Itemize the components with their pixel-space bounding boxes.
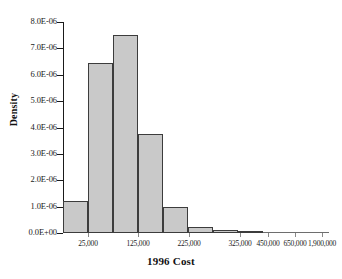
y-axis-tick: [57, 233, 63, 234]
x-axis-tick: [268, 233, 269, 237]
x-axis-tick-label: 325,000: [229, 239, 252, 248]
y-axis-tick: [57, 48, 63, 49]
x-axis-tick-label: 225,000: [178, 239, 201, 248]
y-axis-tick: [57, 128, 63, 129]
histogram-bar: [213, 230, 238, 233]
y-axis-tick-label: 3.0E-06: [9, 148, 57, 158]
histogram-bar: [163, 207, 188, 233]
y-axis-tick: [57, 154, 63, 155]
y-axis-tick-label: 2.0E-06: [9, 174, 57, 184]
y-axis-tick: [57, 101, 63, 102]
x-axis-title: 1996 Cost: [0, 255, 342, 267]
histogram-bar: [238, 231, 263, 233]
histogram-bar: [188, 227, 213, 233]
histogram-bar: [63, 201, 88, 233]
y-axis-tick-label: 0.0E+00: [9, 227, 57, 237]
x-axis-tick: [88, 233, 89, 237]
histogram-figure: Density 0.0E+001.0E-062.0E-063.0E-064.0E…: [0, 0, 342, 279]
y-axis-tick: [57, 180, 63, 181]
x-axis-tick-label: 125,000: [127, 239, 150, 248]
y-axis-tick: [57, 207, 63, 208]
x-axis-tick: [189, 233, 190, 237]
y-axis-tick-label: 8.0E-06: [9, 16, 57, 26]
y-axis-tick-label: 1.0E-06: [9, 201, 57, 211]
y-axis-tick: [57, 22, 63, 23]
plot-area: [63, 22, 329, 233]
histogram-bar: [88, 63, 113, 233]
y-axis-tick-label: 5.0E-06: [9, 95, 57, 105]
x-axis-tick: [322, 233, 323, 237]
x-axis-tick-label: 450,000: [257, 239, 280, 248]
y-axis-labels: 0.0E+001.0E-062.0E-063.0E-064.0E-065.0E-…: [2, 0, 57, 279]
x-axis-tick: [295, 233, 296, 237]
x-axis-tick: [240, 233, 241, 237]
y-axis-tick-label: 4.0E-06: [9, 122, 57, 132]
x-axis-tick-label: 25,000: [78, 239, 97, 248]
y-axis-tick-label: 6.0E-06: [9, 69, 57, 79]
histogram-bar: [113, 35, 138, 233]
x-axis-tick: [138, 233, 139, 237]
y-axis-tick: [57, 75, 63, 76]
y-axis-tick-label: 7.0E-06: [9, 42, 57, 52]
x-axis-tick-label: 1,900,000: [308, 239, 336, 248]
x-axis-tick-label: 650,000: [284, 239, 307, 248]
histogram-bar: [138, 134, 163, 233]
